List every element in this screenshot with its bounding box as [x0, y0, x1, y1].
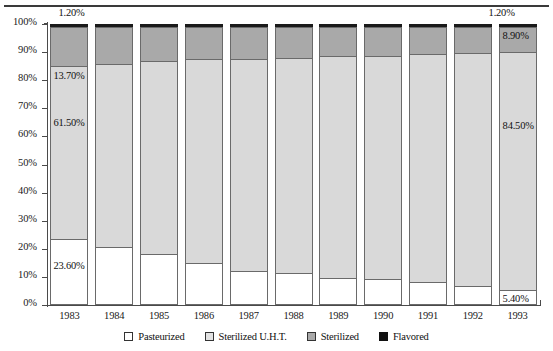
bar-1992[interactable]: [454, 24, 492, 305]
bar-1986[interactable]: [185, 24, 223, 305]
bar-segment-pasteurized-1989[interactable]: [319, 278, 357, 305]
bar-segment-sterilized-uht-1988[interactable]: [275, 58, 313, 273]
legend-label-flavored: Flavored: [393, 331, 429, 342]
flavored-swatch-icon: [379, 332, 388, 341]
y-axis-tick-label: 30%: [18, 213, 37, 224]
bar-segment-sterilized-1990[interactable]: [364, 27, 402, 55]
bar-segment-sterilized-1988[interactable]: [275, 27, 313, 57]
bar-segment-flavored-1985[interactable]: [140, 24, 178, 27]
y-axis-tick-label: 100%: [13, 16, 37, 27]
legend-item-sterilized[interactable]: Sterilized: [307, 331, 359, 342]
plot-area: [47, 24, 540, 305]
bar-segment-sterilized-1985[interactable]: [140, 27, 178, 61]
x-axis-right-cap: [540, 300, 541, 306]
bar-segment-flavored-1992[interactable]: [454, 24, 492, 27]
bar-segment-pasteurized-1983[interactable]: [50, 239, 88, 305]
y-axis-tick-label: 10%: [18, 269, 37, 280]
y-axis-tick-label: 40%: [18, 185, 37, 196]
bar-segment-sterilized-1992[interactable]: [454, 27, 492, 53]
bar-segment-sterilized-uht-1985[interactable]: [140, 61, 178, 254]
legend: Pasteurized Sterilized U.H.T. Sterilized…: [0, 331, 553, 342]
y-axis-tick-label: 20%: [18, 241, 37, 252]
pasteurized-swatch-icon: [124, 332, 133, 341]
annotation-sterilized-uht-1993: 84.50%: [503, 120, 534, 131]
y-axis-tick-label: 80%: [18, 72, 37, 83]
bar-segment-sterilized-1989[interactable]: [319, 27, 357, 55]
uht-swatch-icon: [205, 332, 214, 341]
legend-label-sterilized: Sterilized: [321, 331, 359, 342]
bar-segment-sterilized-uht-1986[interactable]: [185, 59, 223, 263]
bar-1990[interactable]: [364, 24, 402, 305]
bar-segment-sterilized-uht-1991[interactable]: [409, 54, 447, 282]
bar-segment-sterilized-uht-1987[interactable]: [230, 59, 268, 271]
stacked-bar-chart: 0%10%20%30%40%50%60%70%80%90%100% 198319…: [0, 0, 553, 351]
bar-segment-sterilized-uht-1993[interactable]: [499, 52, 537, 289]
bar-segment-pasteurized-1986[interactable]: [185, 263, 223, 305]
bar-segment-pasteurized-1985[interactable]: [140, 254, 178, 305]
bar-1989[interactable]: [319, 24, 357, 305]
bar-segment-flavored-1986[interactable]: [185, 24, 223, 27]
bar-segment-flavored-1993[interactable]: [499, 24, 537, 27]
sterilized-swatch-icon: [307, 332, 316, 341]
bar-segment-flavored-1990[interactable]: [364, 24, 402, 27]
x-axis-line: [44, 305, 541, 306]
bar-segment-pasteurized-1984[interactable]: [95, 247, 133, 305]
legend-item-sterilized-uht[interactable]: Sterilized U.H.T.: [205, 331, 287, 342]
bar-segment-sterilized-uht-1984[interactable]: [95, 64, 133, 247]
bar-segment-flavored-1983[interactable]: [50, 24, 88, 27]
bar-segment-pasteurized-1991[interactable]: [409, 282, 447, 305]
bar-segment-flavored-1991[interactable]: [409, 24, 447, 27]
legend-label-sterilized-uht: Sterilized U.H.T.: [219, 331, 287, 342]
bar-segment-sterilized-uht-1983[interactable]: [50, 66, 88, 239]
legend-item-flavored[interactable]: Flavored: [379, 331, 429, 342]
bar-1984[interactable]: [95, 24, 133, 305]
annotation-sterilized-1993: 8.90%: [503, 30, 529, 41]
bar-segment-sterilized-uht-1989[interactable]: [319, 56, 357, 278]
bar-segment-flavored-1984[interactable]: [95, 24, 133, 27]
bar-segment-flavored-1987[interactable]: [230, 24, 268, 27]
y-axis-tick-label: 70%: [18, 100, 37, 111]
bar-segment-pasteurized-1987[interactable]: [230, 271, 268, 305]
annotation-pasteurized-1983: 23.60%: [53, 260, 84, 271]
bar-segment-sterilized-1987[interactable]: [230, 27, 268, 58]
bar-1988[interactable]: [275, 24, 313, 305]
y-axis-tick-label: 0%: [23, 297, 37, 308]
bar-segment-sterilized-1986[interactable]: [185, 27, 223, 59]
bar-segment-sterilized-1991[interactable]: [409, 27, 447, 53]
legend-label-pasteurized: Pasteurized: [138, 331, 184, 342]
bar-1993[interactable]: [499, 24, 537, 305]
bar-segment-pasteurized-1988[interactable]: [275, 273, 313, 305]
bar-segment-flavored-1989[interactable]: [319, 24, 357, 27]
bar-segment-pasteurized-1992[interactable]: [454, 286, 492, 305]
bar-segment-pasteurized-1990[interactable]: [364, 279, 402, 305]
bar-1991[interactable]: [409, 24, 447, 305]
bar-segment-sterilized-uht-1990[interactable]: [364, 56, 402, 279]
annotation-sterilized-uht-1983: 61.50%: [53, 117, 84, 128]
bar-segment-sterilized-1983[interactable]: [50, 27, 88, 65]
bar-1987[interactable]: [230, 24, 268, 305]
bar-segment-sterilized-uht-1992[interactable]: [454, 53, 492, 286]
annotation-sterilized-1983: 13.70%: [53, 70, 84, 81]
bar-segment-flavored-1988[interactable]: [275, 24, 313, 27]
annotation-flavored-1993: 1.20%: [489, 7, 515, 18]
y-axis-tick-label: 90%: [18, 44, 37, 55]
bar-1985[interactable]: [140, 24, 178, 305]
y-axis-tick-mark: [42, 305, 47, 306]
top-divider-rule: [4, 5, 549, 7]
annotation-pasteurized-1993: 5.40%: [503, 293, 529, 304]
legend-item-pasteurized[interactable]: Pasteurized: [124, 331, 184, 342]
y-axis-tick-label: 60%: [18, 128, 37, 139]
x-axis-tick-label-1993: 1993: [488, 310, 548, 321]
bar-segment-sterilized-1984[interactable]: [95, 27, 133, 64]
y-axis-tick-label: 50%: [18, 157, 37, 168]
annotation-flavored-1983: 1.20%: [58, 7, 84, 18]
